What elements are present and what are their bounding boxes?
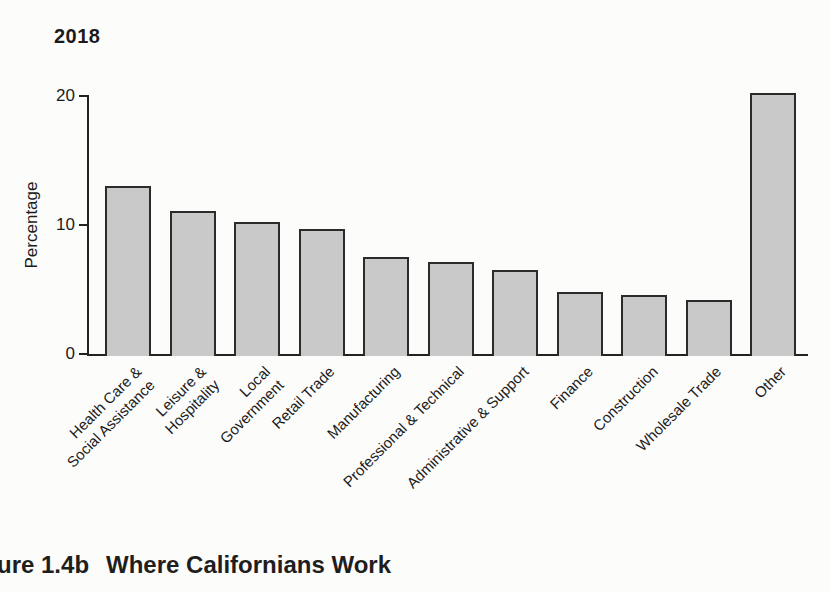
bar-3 <box>234 222 280 356</box>
x-axis-label: Other <box>750 362 790 402</box>
bar-9 <box>621 295 667 356</box>
bar-10 <box>686 300 732 356</box>
figure-caption: ure 1.4bWhere Californians Work <box>0 551 391 579</box>
x-axis-label: Finance <box>545 362 596 413</box>
figure-caption-number: ure 1.4b <box>0 551 89 578</box>
x-axis-label: LocalGovernment <box>203 362 288 447</box>
y-tick-label: 0 <box>31 343 75 365</box>
y-tick-mark <box>79 353 88 355</box>
bar-1 <box>105 186 151 356</box>
x-axis-label: Administrative & Support <box>402 362 532 492</box>
bar-8 <box>557 292 603 356</box>
bar-7 <box>492 270 538 356</box>
bar-4 <box>299 229 345 356</box>
x-axis-label: Health Care &Social Assistance <box>49 362 158 471</box>
figure-1-4b-chart: 2018 Percentage 01020 Health Care &Socia… <box>0 0 831 592</box>
y-tick-label: 20 <box>31 85 75 107</box>
bar-11 <box>750 93 796 356</box>
y-tick-mark <box>79 95 88 97</box>
chart-title-year: 2018 <box>54 25 101 48</box>
y-tick-mark <box>79 224 88 226</box>
figure-caption-title: Where Californians Work <box>106 551 391 578</box>
bar-6 <box>428 262 474 356</box>
y-tick-label: 10 <box>31 214 75 236</box>
bar-2 <box>170 211 216 356</box>
bar-5 <box>363 257 409 356</box>
x-axis-label: Professional & Technical <box>339 362 468 491</box>
